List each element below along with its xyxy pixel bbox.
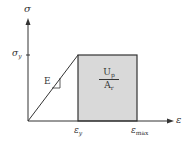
denominator-sub: r	[111, 84, 114, 91]
sigma-y-label: σy	[12, 49, 22, 59]
slope-triangle-icon	[52, 78, 60, 88]
x-axis-label: ε	[176, 115, 181, 125]
x-axis-arrow-icon	[167, 119, 174, 124]
y-axis-label: σ	[24, 4, 31, 14]
sigma-y-sub: y	[18, 52, 21, 59]
fraction-denominator: Ar	[97, 81, 121, 91]
numerator-sub: p	[111, 71, 115, 78]
numerator-symbol: U	[103, 67, 111, 77]
y-axis-arrow-icon	[26, 18, 31, 25]
modulus-label: E	[44, 77, 51, 86]
epsilon-max-label: εmax	[131, 126, 149, 136]
epsilon-y-label: εy	[74, 126, 82, 136]
fraction-numerator: Up	[97, 68, 121, 78]
epsilon-max-sub: max	[136, 129, 149, 136]
stress-strain-diagram	[0, 0, 190, 143]
area-fraction-label: Up Ar	[97, 68, 121, 91]
epsilon-y-sub: y	[79, 129, 82, 136]
